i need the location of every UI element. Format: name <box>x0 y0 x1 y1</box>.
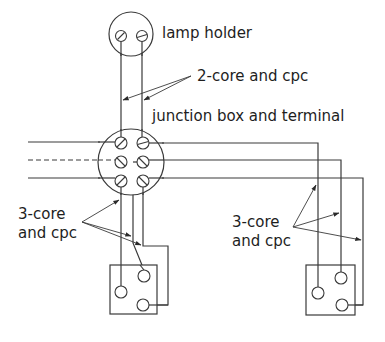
right-three-core-label-1: 3-core <box>232 213 279 231</box>
switch-terminal-l1 <box>138 270 150 282</box>
junction-box <box>98 129 164 195</box>
junction-terminal <box>137 175 149 187</box>
junction-terminal <box>115 175 127 187</box>
right-three-core-label-2: and cpc <box>232 232 291 250</box>
switch-terminal-common <box>312 287 324 299</box>
junction-terminal <box>137 156 149 168</box>
incoming-feed-lines <box>28 142 100 178</box>
lamp-holder-label: lamp holder <box>162 24 253 42</box>
junction-terminal <box>115 137 127 149</box>
two-core-label: 2-core and cpc <box>197 67 308 85</box>
left-switch <box>110 265 168 314</box>
lamp-holder <box>109 12 153 56</box>
switch-terminal-l1 <box>335 272 347 284</box>
switch-terminal-common <box>115 286 127 298</box>
junction-terminal <box>115 156 127 168</box>
right-switch <box>306 265 363 315</box>
junction-box-label: junction box and terminal <box>151 107 344 125</box>
switch-terminal-l2 <box>336 299 348 311</box>
wiring-diagram: lamp holder 2-core and cpc junction box … <box>0 0 385 342</box>
switch-terminal-l2 <box>137 299 149 311</box>
left-three-core-label-1: 3-core <box>18 205 65 223</box>
left-three-core-label-2: and cpc <box>18 224 77 242</box>
junction-terminal <box>137 137 149 149</box>
